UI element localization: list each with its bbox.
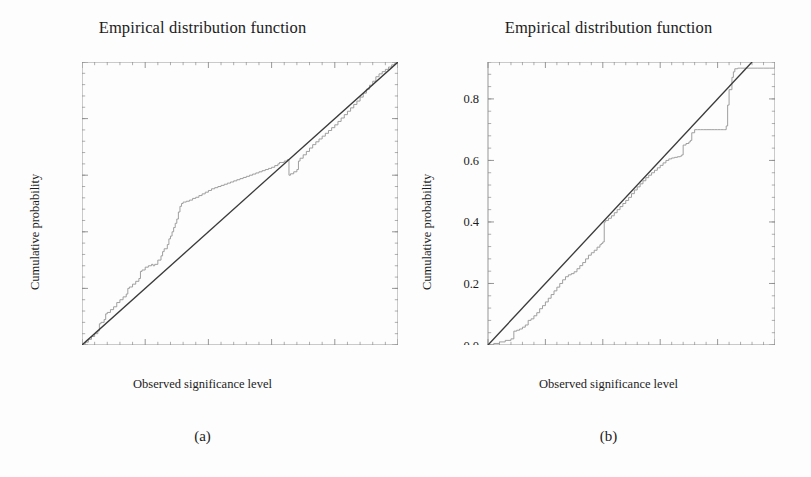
panel-a-chart-svg: 0.00.20.40.60.81.00.00.20.40.60.81.0	[82, 62, 398, 345]
panel-b-xaxis-label: Observed significance level	[406, 377, 811, 392]
plot-frame	[488, 62, 775, 345]
y-tick-label: 0.8	[463, 92, 479, 106]
y-tick-label: 0.4	[463, 215, 479, 229]
reference-diagonal-line	[488, 62, 752, 345]
figure-panel-b: Empirical distribution function 0.00.20.…	[406, 0, 811, 477]
y-tick-label: 0.0	[463, 339, 479, 346]
reference-diagonal-line	[82, 62, 398, 345]
panel-a-title: Empirical distribution function	[0, 18, 405, 38]
panel-b-chart-svg: 0.00.20.40.60.81.00.00.20.40.60.8	[455, 62, 775, 345]
panel-a-yaxis-label: Cumulative probability	[28, 174, 43, 290]
figure-panel-a: Empirical distribution function 0.00.20.…	[0, 0, 405, 477]
ecdf-step-curve	[488, 68, 775, 345]
panel-a-plot-area: 0.00.20.40.60.81.00.00.20.40.60.81.0	[82, 62, 398, 345]
panel-b-title: Empirical distribution function	[406, 18, 811, 38]
y-tick-label: 0.2	[463, 277, 479, 291]
panel-b-caption: (b)	[406, 428, 811, 445]
y-tick-label: 0.6	[463, 154, 479, 168]
panel-a-xaxis-label: Observed significance level	[0, 377, 405, 392]
panel-b-plot-area: 0.00.20.40.60.81.00.00.20.40.60.8	[455, 62, 775, 345]
panel-b-yaxis-label: Cumulative probability	[420, 174, 435, 290]
figure-sheet: Empirical distribution function 0.00.20.…	[0, 0, 811, 477]
panel-a-caption: (a)	[0, 428, 405, 445]
